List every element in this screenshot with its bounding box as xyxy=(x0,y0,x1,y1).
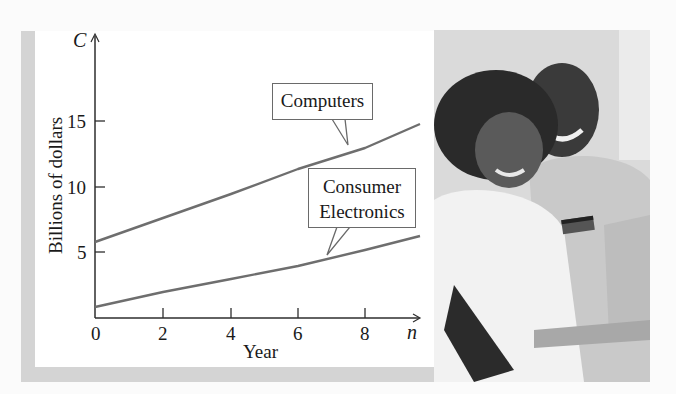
photo-illustration xyxy=(434,30,650,382)
x-ticks xyxy=(163,308,365,318)
y-tick-label-5: 5 xyxy=(77,243,87,262)
x-tick-label-4: 4 xyxy=(226,324,236,343)
callout-consumer-label-line1: Consumer xyxy=(309,174,415,199)
y-tick-label-10: 10 xyxy=(67,178,86,197)
x-tick-label-0: 0 xyxy=(91,324,101,343)
y-tick-label-15: 15 xyxy=(67,112,86,131)
callout-computers-label: Computers xyxy=(281,90,364,111)
y-axis-title: Billions of dollars xyxy=(46,117,65,254)
x-tick-label-6: 6 xyxy=(293,324,303,343)
callout-computers: Computers xyxy=(272,83,373,120)
x-tick-label-2: 2 xyxy=(158,324,168,343)
callout-consumer-pointer xyxy=(327,227,350,255)
photo-couple-shopping-online xyxy=(434,30,650,382)
callout-computers-pointer xyxy=(332,119,348,145)
x-tick-label-8: 8 xyxy=(360,324,370,343)
series-consumer-electronics-line xyxy=(95,236,420,307)
y-ticks xyxy=(95,121,105,252)
y-axis-variable: C xyxy=(73,30,86,50)
x-axis-title: Year xyxy=(243,342,278,361)
callout-consumer-label-line2: Electronics xyxy=(309,199,415,224)
callout-consumer-electronics: Consumer Electronics xyxy=(308,168,416,228)
x-axis-variable: n xyxy=(407,322,417,342)
